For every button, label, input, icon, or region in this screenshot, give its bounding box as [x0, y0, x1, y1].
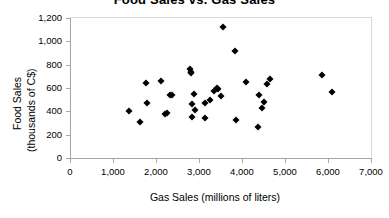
y-axis-title-line2: (thousands of C$) — [25, 69, 37, 152]
y-axis-title-line1: Food Sales — [11, 77, 23, 130]
x-axis-title: Gas Sales (millions of liters) — [55, 191, 375, 203]
y-tick-label: 0 — [28, 152, 62, 163]
x-tick-mark — [371, 159, 372, 163]
y-tick-mark — [66, 111, 70, 112]
x-tick-label: 0 — [50, 166, 90, 177]
y-tick-mark — [66, 41, 70, 42]
y-tick-mark — [66, 135, 70, 136]
x-tick-label: 2,000 — [136, 166, 176, 177]
y-tick-mark — [66, 65, 70, 66]
y-tick-mark — [66, 88, 70, 89]
x-tick-mark — [285, 159, 286, 163]
x-tick-label: 7,000 — [351, 166, 389, 177]
y-tick-mark — [66, 18, 70, 19]
chart-title: Food Sales vs. Gas Sales — [0, 0, 389, 7]
y-tick-label: 1,200 — [28, 12, 62, 23]
y-tick-label: 1,000 — [28, 35, 62, 46]
x-tick-mark — [156, 159, 157, 163]
x-tick-label: 5,000 — [265, 166, 305, 177]
x-tick-label: 1,000 — [93, 166, 133, 177]
x-tick-label: 4,000 — [222, 166, 262, 177]
scatter-chart: Food Sales vs. Gas Sales 02004006008001,… — [0, 0, 389, 218]
x-tick-label: 3,000 — [179, 166, 219, 177]
x-tick-mark — [199, 159, 200, 163]
x-tick-mark — [242, 159, 243, 163]
x-tick-mark — [70, 159, 71, 163]
x-tick-label: 6,000 — [308, 166, 348, 177]
x-tick-mark — [328, 159, 329, 163]
x-tick-mark — [113, 159, 114, 163]
